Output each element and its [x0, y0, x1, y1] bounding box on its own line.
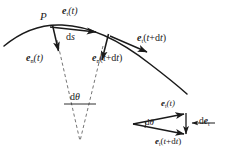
- tangent-tdt-sub: t: [141, 37, 143, 44]
- tangent-vector-tdt-label: et(t+dt): [137, 33, 166, 43]
- inset-tangent-tdt-sub: t: [159, 141, 161, 147]
- inset-dtheta-label: dθ: [145, 118, 154, 127]
- normal-vector-tdt-label: en(t+dt): [92, 53, 122, 63]
- normal-vector-t-arrow: [53, 25, 59, 51]
- dtheta-label: dθ: [70, 92, 80, 102]
- normal-tdt-close: ): [119, 52, 122, 63]
- dtheta-theta: θ: [75, 91, 80, 102]
- inset-dtheta-theta: θ: [150, 117, 154, 127]
- tangent-tdt-close: ): [163, 32, 166, 43]
- inset-tangent-t-arg: (t): [167, 98, 176, 108]
- inset-tangent-tdt-close: ): [178, 136, 181, 146]
- tangent-t-sub: t: [66, 10, 68, 17]
- tangent-t-arg: (t): [68, 5, 77, 16]
- inset-tangent-t-label: et(t): [161, 99, 175, 108]
- normal-t-sub: n: [30, 57, 33, 64]
- normal-tdt-sub: n: [96, 57, 99, 64]
- inset-tangent-t-sub: t: [165, 103, 167, 109]
- arc-length-label: ds: [66, 32, 75, 42]
- normal-t-arg: (t): [34, 52, 43, 63]
- tangent-vector-t-label: et(t): [62, 6, 78, 16]
- inset-tangent-tdt-label: et(t+dt): [155, 137, 181, 146]
- delta-tangent-label: det: [199, 117, 210, 127]
- arc-length-s: s: [71, 31, 75, 42]
- point-p-label: P: [40, 11, 47, 22]
- normal-vector-t-label: en(t): [26, 53, 43, 63]
- curvature-diagram: [0, 0, 225, 155]
- delta-tangent-sub: t: [208, 121, 210, 127]
